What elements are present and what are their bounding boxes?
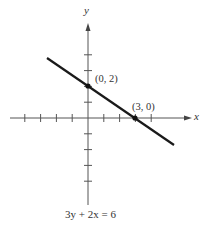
x-axis-label: x (194, 110, 199, 122)
point-0-2 (85, 83, 90, 88)
y-axis-arrow-icon (86, 23, 91, 31)
equation-caption: 3y + 2x = 6 (65, 208, 116, 220)
coordinate-plane (0, 0, 209, 229)
point-label-0-2: (0, 2) (95, 73, 118, 84)
point-3-0 (132, 115, 137, 120)
y-axis-label: y (84, 4, 89, 16)
point-label-3-0: (3, 0) (132, 101, 155, 112)
x-axis-arrow-icon (184, 116, 192, 121)
